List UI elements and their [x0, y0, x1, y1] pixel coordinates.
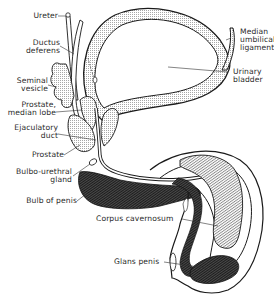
label-prostate: Prostate [20, 151, 64, 159]
label-bulbo-urethral-gland: Bulbo-urethral gland [2, 168, 72, 184]
label-seminal-vesicle: Seminal vesicle [4, 77, 48, 93]
bulbo-urethral-gland-shape [88, 158, 98, 167]
label-urinary-bladder: Urinary bladder [233, 68, 263, 84]
label-glans-penis: Glans penis [114, 258, 159, 266]
label-bulb-of-penis: Bulb of penis [10, 197, 77, 205]
ductus-deferens-shape [71, 20, 83, 128]
label-ejaculatory-duct: Ejaculatory duct [4, 124, 58, 140]
label-ductus-deferens: Ductus deferens [16, 39, 60, 55]
label-corpus-cavernosum: Corpus cavernosum [96, 215, 173, 223]
urinary-bladder-shape [84, 9, 230, 120]
label-prostate-median-lobe: Prostate, median lobe [0, 101, 56, 117]
label-median-umbilical-ligament: Median umbilical ligament [240, 28, 274, 53]
glans-penis-shape [190, 256, 239, 284]
label-ureter: Ureter [22, 12, 58, 20]
